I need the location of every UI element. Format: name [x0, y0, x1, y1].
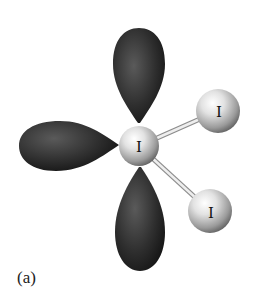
upper-atom-label: I — [216, 103, 222, 121]
lone-pair-lobe-left — [19, 121, 119, 171]
figure-caption: (a) — [17, 268, 36, 288]
lone-pair-lobe-bottom — [115, 167, 165, 271]
lower-atom-label: I — [208, 204, 214, 222]
bonded-iodine-atom-upper: I — [196, 89, 240, 133]
central-atom-label: I — [136, 138, 142, 156]
molecule-diagram: I I I — [0, 0, 267, 304]
bonded-iodine-atom-lower: I — [188, 189, 232, 233]
central-iodine-atom: I — [119, 126, 159, 166]
lone-pair-lobe-top — [113, 28, 165, 123]
